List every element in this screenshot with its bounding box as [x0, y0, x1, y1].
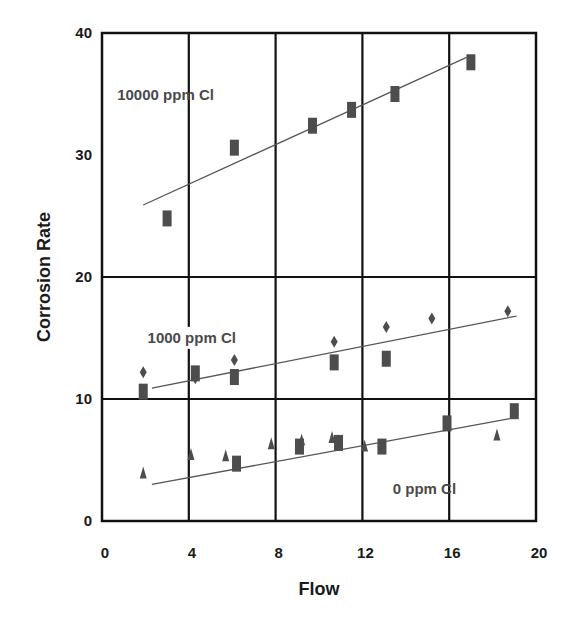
square-marker	[510, 403, 519, 419]
x-axis-ticks: 048121620	[101, 544, 548, 561]
trendlines	[143, 57, 516, 484]
series-label: 1000 ppm Cl	[148, 329, 236, 346]
trendline	[143, 57, 466, 205]
square-marker	[347, 102, 356, 118]
x-tick-label: 20	[531, 544, 548, 561]
triangle-marker	[493, 429, 500, 441]
gridlines	[102, 33, 536, 521]
square-marker	[308, 118, 317, 134]
diamond-marker	[504, 305, 511, 317]
square-marker	[382, 351, 391, 367]
diamond-marker	[231, 354, 238, 366]
triangle-marker	[268, 437, 275, 449]
y-tick-label: 10	[75, 390, 92, 407]
x-axis-title: Flow	[299, 579, 341, 599]
square-marker	[163, 210, 172, 226]
x-tick-label: 8	[274, 544, 282, 561]
square-marker	[443, 415, 452, 431]
diamond-marker	[140, 366, 147, 378]
square-marker	[230, 140, 239, 156]
y-axis-title: Corrosion Rate	[34, 212, 54, 342]
trendline	[152, 316, 517, 388]
square-marker	[330, 354, 339, 370]
triangle-marker	[140, 466, 147, 478]
y-axis-ticks: 010203040	[75, 24, 92, 529]
y-tick-label: 40	[75, 24, 92, 41]
y-tick-label: 30	[75, 146, 92, 163]
diamond-marker	[428, 312, 435, 324]
y-tick-label: 0	[84, 512, 92, 529]
corrosion-rate-chart: 048121620 010203040 10000 ppm Cl1000 ppm…	[0, 0, 568, 619]
x-tick-label: 0	[101, 544, 109, 561]
x-tick-label: 12	[357, 544, 374, 561]
square-marker	[466, 54, 475, 70]
square-marker	[390, 86, 399, 102]
series-annotations: 10000 ppm Cl1000 ppm Cl0 ppm Cl	[117, 86, 456, 497]
x-tick-label: 4	[188, 544, 197, 561]
series-label: 10000 ppm Cl	[117, 86, 214, 103]
diamond-marker	[331, 336, 338, 348]
data-markers	[139, 54, 519, 478]
square-marker	[377, 439, 386, 455]
triangle-marker	[222, 449, 229, 461]
y-tick-label: 20	[75, 268, 92, 285]
diamond-marker	[383, 321, 390, 333]
square-marker	[230, 369, 239, 385]
series-label: 0 ppm Cl	[393, 480, 456, 497]
square-marker	[232, 456, 241, 472]
x-tick-label: 16	[444, 544, 461, 561]
trendline	[152, 419, 510, 485]
square-marker	[139, 384, 148, 400]
